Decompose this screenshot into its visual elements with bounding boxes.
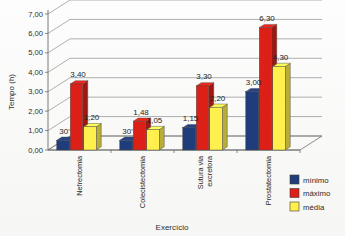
bar-média	[84, 127, 97, 150]
chart-svg: Tempo (h) 0,001,002,003,004,005,006,007,…	[0, 0, 345, 236]
bar-mínimo	[57, 140, 70, 150]
bar-side-face	[285, 63, 290, 150]
bar-value-label: 3,40	[70, 70, 86, 79]
legend-swatch-média	[290, 202, 299, 211]
bar-value-label: 30'	[122, 127, 133, 136]
bar-value-label: 4,30	[273, 53, 289, 62]
bar-value-label: 3,30	[196, 72, 212, 81]
bar-side-face	[159, 126, 164, 150]
legend-label-máximo: máximo	[303, 189, 331, 198]
bar-side-face	[96, 123, 101, 150]
chart-legend: mínimomáximomédia	[290, 175, 331, 212]
bar-value-label: 1,15	[183, 114, 199, 123]
legend-swatch-máximo	[290, 189, 299, 198]
bars-group	[57, 24, 291, 150]
x-axis-title: Exercício	[156, 223, 189, 232]
bar-value-label: 1,05	[147, 116, 163, 125]
category-label: Prostatectomia	[264, 155, 273, 205]
legend-label-mínimo: mínimo	[303, 176, 329, 185]
bar-value-label: 30'	[59, 127, 70, 136]
bar-side-face	[222, 104, 227, 150]
bar-value-label: 1,20	[84, 113, 100, 122]
bar-mínimo	[120, 140, 133, 150]
bar-média	[273, 66, 286, 150]
bar-mínimo	[183, 128, 196, 150]
y-tick-label: 7,00	[28, 10, 43, 19]
category-label: excretora	[205, 155, 214, 187]
y-tick-label: 1,00	[28, 126, 43, 135]
legend-label-média: média	[303, 203, 325, 212]
chart-container: Tempo (h) 0,001,002,003,004,005,006,007,…	[0, 0, 345, 236]
legend-swatch-mínimo	[290, 175, 299, 184]
y-tick-label: 6,00	[28, 29, 43, 38]
bar-value-label: 2,20	[210, 94, 226, 103]
y-axis-group: 0,001,002,003,004,005,006,007,00	[28, 10, 48, 155]
bar-value-label: 6,30	[259, 14, 275, 23]
category-label: Colecistectomia	[138, 155, 147, 208]
y-tick-label: 3,00	[28, 87, 43, 96]
bar-máximo	[259, 28, 272, 150]
bar-média	[210, 107, 223, 150]
y-axis-title: Tempo (h)	[7, 74, 16, 110]
bar-média	[147, 130, 160, 150]
bar-mínimo	[246, 92, 259, 150]
y-tick-label: 4,00	[28, 68, 43, 77]
category-labels-group: NefrectomiaColecistectomiaSutura viaexcr…	[75, 150, 301, 208]
bar-máximo	[133, 121, 146, 150]
y-tick-label: 5,00	[28, 48, 43, 57]
category-label: Nefrectomia	[75, 155, 84, 196]
y-tick-label: 0,00	[28, 146, 43, 155]
bar-value-label: 3,00	[246, 78, 262, 87]
y-tick-label: 2,00	[28, 107, 43, 116]
bar-máximo	[70, 84, 83, 150]
